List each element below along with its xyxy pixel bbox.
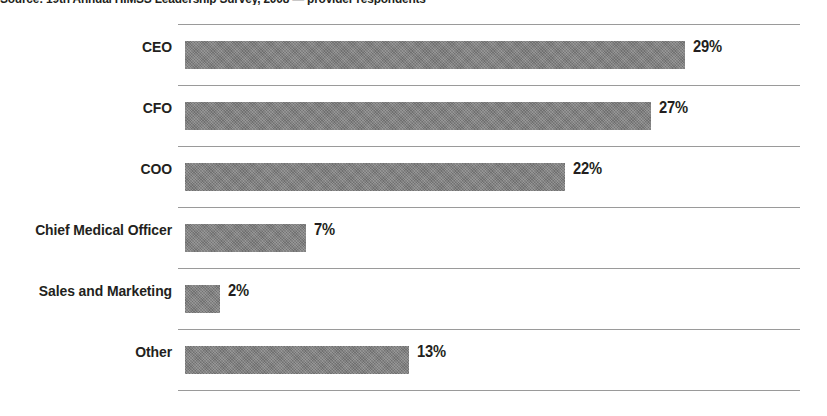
chart-row: CEO 29% [0, 24, 827, 85]
value-label-other: 13% [417, 343, 446, 361]
chart-row: CFO 27% [0, 85, 827, 146]
value-label-chief-medical-officer: 7% [314, 221, 335, 239]
bar-other [185, 346, 409, 374]
category-label-chief-medical-officer: Chief Medical Officer [17, 221, 172, 239]
value-label-cfo: 27% [659, 99, 688, 117]
chart-row: Chief Medical Officer 7% [0, 207, 827, 268]
category-label-cfo: CFO [17, 99, 172, 117]
bar-sales-and-marketing [185, 285, 220, 313]
bar-coo [185, 163, 565, 191]
chart-row: Other 13% [0, 329, 827, 390]
category-label-other: Other [17, 343, 172, 361]
category-label-coo: COO [17, 160, 172, 178]
bar-chief-medical-officer [185, 224, 306, 252]
bar-cfo [185, 102, 651, 130]
bar-ceo [185, 41, 685, 69]
grid-line [178, 390, 800, 391]
value-label-ceo: 29% [693, 38, 722, 56]
chart-row: Sales and Marketing 2% [0, 268, 827, 329]
value-label-sales-and-marketing: 2% [228, 282, 249, 300]
bar-chart: Source: 19th Annual HIMSS Leadership Sur… [0, 0, 827, 416]
category-label-sales-and-marketing: Sales and Marketing [17, 282, 172, 300]
category-label-ceo: CEO [17, 38, 172, 56]
source-note: Source: 19th Annual HIMSS Leadership Sur… [0, 0, 728, 5]
value-label-coo: 22% [573, 160, 602, 178]
chart-row: COO 22% [0, 146, 827, 207]
